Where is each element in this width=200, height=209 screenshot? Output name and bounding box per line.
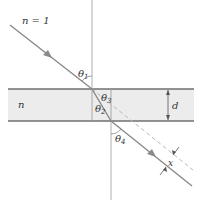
thickness-label: d <box>172 100 178 111</box>
refraction-diagram: n = 1 n θ1 θ3 θ2 θ4 d x <box>0 0 200 209</box>
outer-medium-label: n = 1 <box>22 15 50 26</box>
displacement-label: x <box>168 158 173 168</box>
slab-medium-label: n <box>18 99 24 110</box>
theta4-label: θ4 <box>115 133 126 146</box>
